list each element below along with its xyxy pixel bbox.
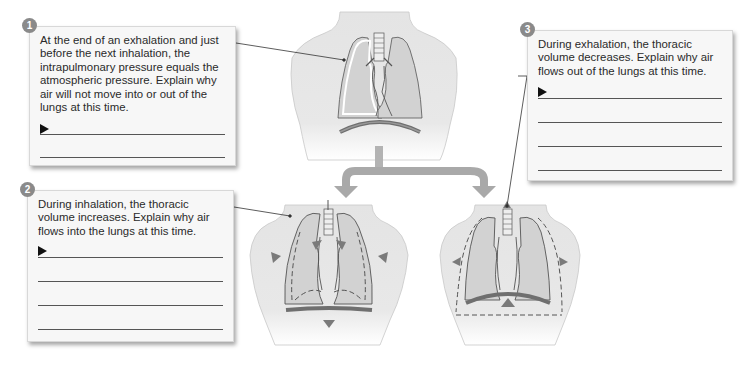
answer-line[interactable] [40,157,225,158]
answer-line[interactable] [38,329,223,330]
question-card-3: During exhalation, the thoracic volume d… [527,30,733,181]
answer-line[interactable] [40,134,225,135]
question-2-text: During inhalation, the thoracic volume i… [38,198,223,238]
question-badge-1: 1 [22,18,37,33]
question-card-2: During inhalation, the thoracic volume i… [27,190,234,342]
answer-line[interactable] [538,122,722,123]
question-1-text: At the end of an exhalation and just bef… [40,34,225,114]
answer-arrow-icon [538,87,547,97]
answer-line[interactable] [38,305,223,306]
torso-exhalation-figure [440,201,580,345]
answer-line[interactable] [538,146,722,147]
question-badge-3: 3 [520,22,535,37]
question-card-1: At the end of an exhalation and just bef… [29,26,236,166]
answer-line[interactable] [38,257,223,258]
answer-line[interactable] [538,170,722,171]
answer-line[interactable] [38,281,223,282]
answer-arrow-icon [38,246,47,256]
question-badge-2: 2 [20,182,35,197]
answer-arrow-icon [40,124,49,134]
answer-line[interactable] [538,98,722,99]
torso-top-figure [291,12,457,160]
question-3-text: During exhalation, the thoracic volume d… [538,38,722,78]
torso-inhalation-figure [250,200,408,345]
